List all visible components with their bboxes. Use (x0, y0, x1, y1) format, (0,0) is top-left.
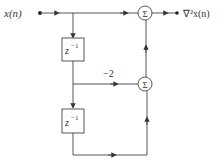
delay1-label: z (64, 45, 69, 56)
sum-top-symbol: Σ (142, 9, 147, 19)
output-node (175, 11, 179, 15)
input-label: x(n) (3, 7, 22, 20)
delay2-label: z (64, 117, 69, 128)
block-diagram: x(n) z −1 −2 z −1 Σ Σ ∇²x(n) (0, 0, 217, 165)
gain-label: −2 (103, 68, 114, 79)
sum-middle-symbol: Σ (142, 80, 147, 90)
delay1-exponent: −1 (71, 42, 79, 50)
delay2-exponent: −1 (71, 114, 79, 122)
output-label: ∇²x(n) (182, 8, 210, 20)
